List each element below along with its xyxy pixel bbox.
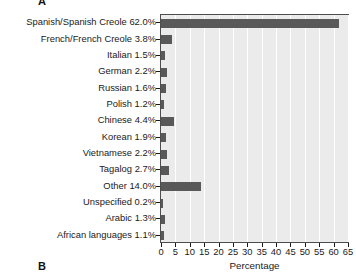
gridline bbox=[190, 15, 191, 242]
category-label: Unspecified 0.2% bbox=[83, 195, 156, 209]
x-tick-label: 20 bbox=[213, 246, 223, 258]
x-tick-label: 25 bbox=[228, 246, 238, 258]
bar bbox=[161, 117, 174, 126]
bar bbox=[161, 84, 166, 93]
x-tick-label: 10 bbox=[185, 246, 195, 258]
x-tick-label: 40 bbox=[271, 246, 281, 258]
gridline bbox=[233, 15, 234, 242]
bar bbox=[161, 199, 163, 208]
bar bbox=[161, 19, 339, 28]
category-label: Vietnamese 2.2% bbox=[83, 146, 156, 160]
plot-panel bbox=[160, 14, 349, 243]
category-label: African languages 1.1% bbox=[57, 228, 156, 242]
x-tick-label: 15 bbox=[199, 246, 209, 258]
gridline bbox=[219, 15, 220, 242]
category-label: Italian 1.5% bbox=[107, 48, 156, 62]
bar bbox=[161, 133, 166, 142]
category-label-column: Spanish/Spanish Creole 62.0%French/Frenc… bbox=[0, 14, 159, 243]
x-tick-label: 50 bbox=[300, 246, 310, 258]
category-label: German 2.2% bbox=[98, 64, 156, 78]
category-label: Chinese 4.4% bbox=[98, 113, 156, 127]
figure-container: A Spanish/Spanish Creole 62.0%French/Fre… bbox=[0, 0, 356, 279]
panel-letter-a: A bbox=[38, 0, 46, 7]
category-label: French/French Creole 3.8% bbox=[41, 32, 156, 46]
x-tick-label: 30 bbox=[242, 246, 252, 258]
x-tick-label: 5 bbox=[173, 246, 178, 258]
category-label: Arabic 1.3% bbox=[105, 211, 156, 225]
category-label: Other 14.0% bbox=[103, 179, 156, 193]
x-tick-label: 65 bbox=[343, 246, 353, 258]
x-tick-label: 60 bbox=[328, 246, 338, 258]
bar bbox=[161, 166, 169, 175]
bar bbox=[161, 150, 167, 159]
gridline bbox=[348, 15, 349, 242]
gridline bbox=[247, 15, 248, 242]
x-tick-label: 55 bbox=[314, 246, 324, 258]
category-label: Polish 1.2% bbox=[106, 97, 156, 111]
category-label: Korean 1.9% bbox=[102, 130, 156, 144]
bar bbox=[161, 68, 167, 77]
bar bbox=[161, 215, 165, 224]
x-tick-label: 45 bbox=[285, 246, 295, 258]
gridline bbox=[305, 15, 306, 242]
gridline bbox=[262, 15, 263, 242]
bar bbox=[161, 35, 172, 44]
gridline bbox=[204, 15, 205, 242]
gridline bbox=[334, 15, 335, 242]
bar bbox=[161, 100, 164, 109]
x-axis-tick-labels: 05101520253035404550556065 bbox=[160, 246, 349, 259]
bar bbox=[161, 51, 165, 60]
category-label: Tagalog 2.7% bbox=[99, 162, 156, 176]
panel-letter-b: B bbox=[38, 260, 46, 272]
gridline bbox=[319, 15, 320, 242]
gridline bbox=[175, 15, 176, 242]
category-label: Russian 1.6% bbox=[98, 81, 156, 95]
x-axis-title: Percentage bbox=[160, 260, 349, 271]
gridline bbox=[290, 15, 291, 242]
bar bbox=[161, 182, 201, 191]
gridline bbox=[276, 15, 277, 242]
category-label: Spanish/Spanish Creole 62.0% bbox=[26, 15, 156, 29]
x-tick-label: 0 bbox=[158, 246, 163, 258]
x-tick-label: 35 bbox=[256, 246, 266, 258]
bar bbox=[161, 231, 164, 240]
